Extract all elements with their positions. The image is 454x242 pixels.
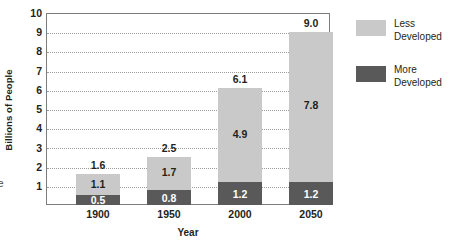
x-tick-1900: 1900 [68, 209, 128, 220]
bar-segment-label-more-1950: 0.8 [147, 193, 191, 204]
x-axis-tick-labels: 1900 1950 2000 2050 [46, 209, 330, 225]
legend-item-less-developed[interactable]: Less Developed [356, 18, 452, 54]
bar-segment-less-developed-2050[interactable]: 7.8 [289, 32, 333, 182]
edge-text-fragment: e [0, 178, 4, 189]
y-axis-title: Billions of People [3, 54, 14, 166]
bar-segment-more-developed-1900[interactable]: 0.5 [76, 195, 120, 205]
legend-label-less-developed: Less Developed [394, 18, 452, 43]
bar-segment-less-developed-1950[interactable]: 1.7 [147, 157, 191, 190]
bar-segment-label-less-2000: 4.9 [218, 129, 262, 140]
bar-segment-label-less-1900: 1.1 [76, 179, 120, 190]
y-tick-10: 10 [22, 8, 42, 19]
bar-segment-label-less-2050: 7.8 [289, 100, 333, 111]
bar-segment-label-more-1900: 0.5 [76, 195, 120, 206]
bar-total-label-1950: 2.5 [147, 143, 191, 154]
legend-label-less-developed-line2: Developed [394, 31, 452, 44]
x-tick-1950: 1950 [139, 209, 199, 220]
y-tick-3: 3 [22, 143, 42, 154]
bars-layer: 1.6 1.1 0.5 2.5 1.7 0.8 6.1 4.9 [46, 13, 330, 205]
bar-segment-more-developed-2050[interactable]: 1.2 [289, 182, 333, 205]
legend-swatch-more-developed [356, 66, 386, 82]
legend-item-more-developed[interactable]: More Developed [356, 64, 452, 100]
legend-label-more-developed-line1: More [394, 64, 452, 77]
bar-segment-more-developed-2000[interactable]: 1.2 [218, 182, 262, 205]
y-tick-9: 9 [22, 27, 42, 38]
bar-segment-label-more-2000: 1.2 [218, 189, 262, 200]
y-tick-2: 2 [22, 162, 42, 173]
legend-label-less-developed-line1: Less [394, 18, 452, 31]
y-axis-tick-labels: 10 9 8 7 6 5 4 3 2 1 [18, 0, 42, 242]
bar-group-2000[interactable]: 6.1 4.9 1.2 [218, 88, 262, 205]
y-tick-1: 1 [22, 181, 42, 192]
bar-segment-label-more-2050: 1.2 [289, 189, 333, 200]
bar-group-1950[interactable]: 2.5 1.7 0.8 [147, 157, 191, 205]
bar-total-label-1900: 1.6 [76, 160, 120, 171]
bar-group-2050[interactable]: 9.0 7.8 1.2 [289, 32, 333, 205]
bar-segment-more-developed-1950[interactable]: 0.8 [147, 190, 191, 205]
bar-segment-less-developed-1900[interactable]: 1.1 [76, 174, 120, 195]
y-tick-5: 5 [22, 104, 42, 115]
x-axis-title: Year [46, 227, 330, 238]
y-tick-4: 4 [22, 123, 42, 134]
bar-total-label-2000: 6.1 [218, 74, 262, 85]
population-stacked-bar-chart: e Billions of People 10 9 8 7 6 5 4 3 2 … [0, 0, 454, 242]
bar-group-1900[interactable]: 1.6 1.1 0.5 [76, 174, 120, 205]
y-tick-6: 6 [22, 85, 42, 96]
legend-swatch-less-developed [356, 20, 386, 36]
bar-segment-less-developed-2000[interactable]: 4.9 [218, 88, 262, 182]
bar-segment-label-less-1950: 1.7 [147, 167, 191, 178]
x-tick-2000: 2000 [210, 209, 270, 220]
legend-label-more-developed-line2: Developed [394, 77, 452, 90]
y-tick-7: 7 [22, 66, 42, 77]
x-tick-2050: 2050 [281, 209, 341, 220]
bar-total-label-2050: 9.0 [289, 18, 333, 29]
y-tick-8: 8 [22, 46, 42, 57]
legend-label-more-developed: More Developed [394, 64, 452, 89]
